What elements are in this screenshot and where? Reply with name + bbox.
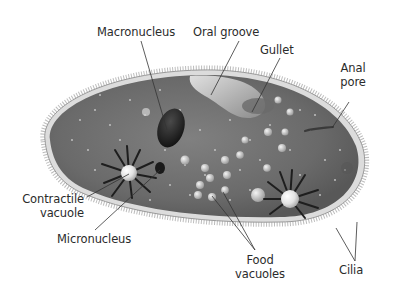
label-food-vacuoles-line2: vacuoles — [232, 267, 288, 281]
label-gullet: Gullet — [260, 43, 294, 57]
label-contractile-vacuole: Contractile vacuole — [12, 192, 84, 220]
label-micronucleus: Micronucleus — [57, 232, 131, 246]
paramecium-illustration — [0, 0, 411, 300]
label-food-vacuoles: Food vacuoles — [232, 253, 288, 281]
label-cilia: Cilia — [339, 263, 363, 277]
label-anal-pore-line1: Anal — [335, 61, 371, 75]
paramecium-diagram: Macronucleus Oral groove Gullet Anal por… — [0, 0, 411, 300]
label-anal-pore-line2: pore — [335, 75, 371, 89]
label-food-vacuoles-line1: Food — [232, 253, 288, 267]
label-oral-groove: Oral groove — [193, 25, 259, 39]
label-macronucleus: Macronucleus — [97, 25, 175, 39]
micronucleus — [155, 162, 165, 174]
label-contractile-vacuole-line2: vacuole — [12, 206, 84, 220]
label-contractile-vacuole-line1: Contractile — [12, 192, 84, 206]
label-anal-pore: Anal pore — [335, 61, 371, 89]
